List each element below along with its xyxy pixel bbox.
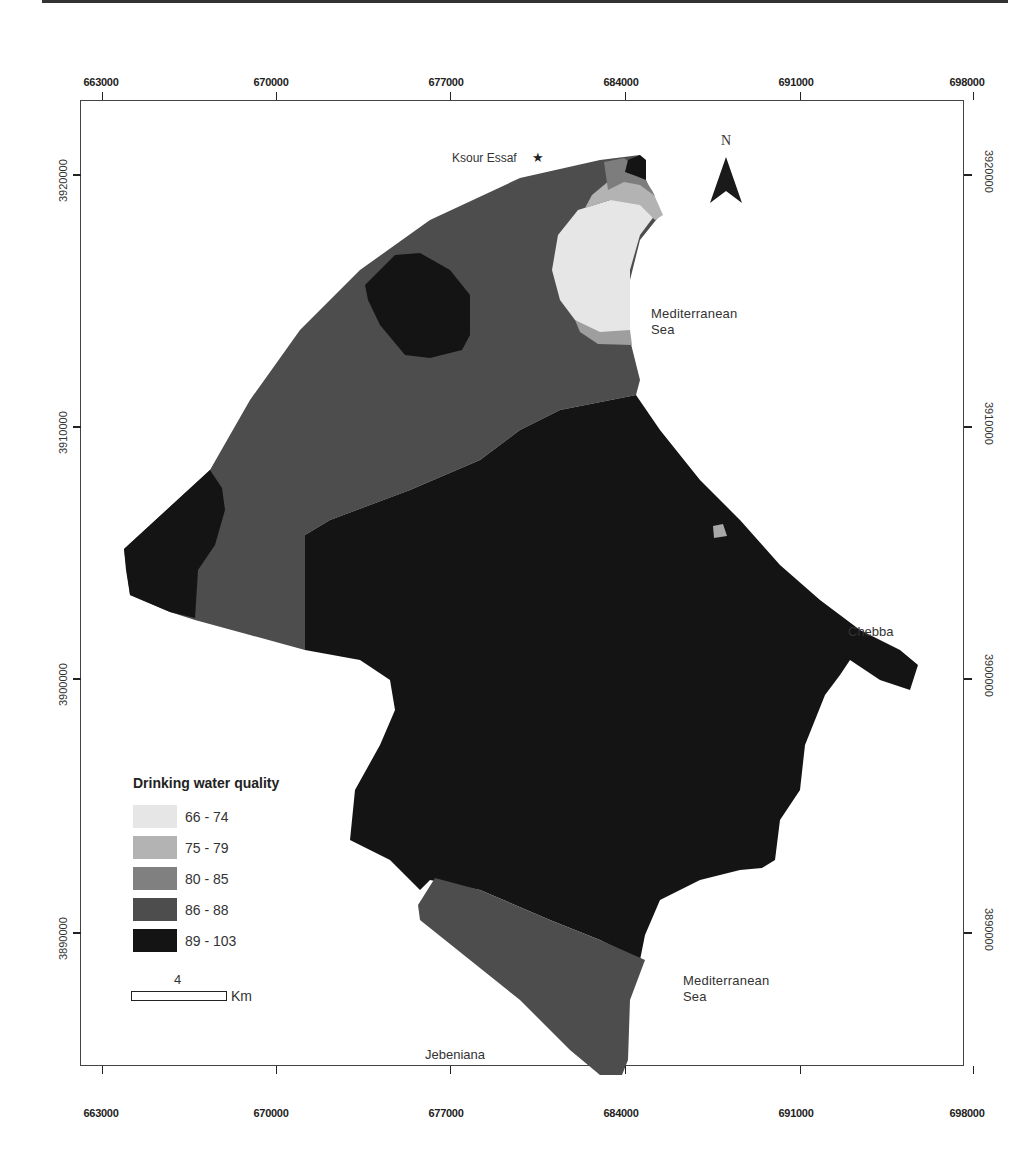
x-tick (800, 92, 801, 100)
legend-item: 89 - 103 (133, 925, 279, 956)
legend-item: 86 - 88 (133, 894, 279, 925)
legend-item: 80 - 85 (133, 863, 279, 894)
y-tick-label: 3900000 (57, 663, 69, 706)
y-tick-label: 3920000 (983, 150, 995, 193)
x-tick (800, 1066, 801, 1074)
y-tick (73, 426, 81, 428)
legend-label: 80 - 85 (185, 871, 229, 887)
north-label: N (706, 133, 746, 149)
scale-bar-graphic (131, 991, 227, 1001)
place-ksour-essaf: Ksour Essaf ★ (452, 150, 544, 166)
sea-label-line: Mediterranean (683, 973, 769, 989)
x-tick-label: 691000 (779, 1107, 814, 1119)
y-tick (73, 932, 81, 934)
legend-label: 86 - 88 (185, 902, 229, 918)
legend-label: 75 - 79 (185, 840, 229, 856)
legend-swatch (133, 805, 177, 828)
y-tick (964, 932, 972, 934)
place-label: Ksour Essaf (452, 151, 517, 165)
sea-label-north: Mediterranean Sea (651, 306, 737, 338)
x-tick-label: 677000 (429, 1107, 464, 1119)
y-tick-label: 3890000 (57, 917, 69, 960)
y-tick-label: 3920000 (57, 159, 69, 202)
sea-label-line: Sea (683, 989, 769, 1005)
x-tick-label: 684000 (604, 76, 639, 88)
x-tick (625, 92, 626, 100)
x-tick-label: 670000 (254, 76, 289, 88)
legend-title: Drinking water quality (133, 775, 279, 791)
x-tick-label: 684000 (604, 1107, 639, 1119)
y-tick (73, 174, 81, 176)
x-tick-label: 663000 (84, 76, 119, 88)
town-star-icon: ★ (532, 150, 544, 165)
y-tick (964, 174, 972, 176)
x-tick (102, 1066, 103, 1074)
x-tick (102, 92, 103, 100)
sea-label-line: Mediterranean (651, 306, 737, 322)
x-tick (450, 92, 451, 100)
x-tick-label: 670000 (254, 1107, 289, 1119)
place-chebba: Chebba (848, 624, 894, 639)
scale-unit: Km (231, 988, 252, 1004)
x-tick (973, 92, 974, 100)
y-tick (73, 678, 81, 680)
legend-label: 89 - 103 (185, 933, 236, 949)
y-tick (964, 678, 972, 680)
x-tick-label: 691000 (779, 76, 814, 88)
north-arrow-icon (706, 149, 746, 209)
legend-swatch (133, 836, 177, 859)
legend-item: 66 - 74 (133, 801, 279, 832)
x-tick (276, 1066, 277, 1074)
y-tick-label: 3910000 (57, 411, 69, 454)
sea-label-south: Mediterranean Sea (683, 973, 769, 1005)
y-tick-label: 3910000 (983, 402, 995, 445)
y-tick-label: 3890000 (983, 908, 995, 951)
scale-value: 4 (174, 972, 181, 987)
x-tick (276, 92, 277, 100)
x-tick-label: 677000 (429, 76, 464, 88)
x-tick (450, 1066, 451, 1074)
x-tick (625, 1066, 626, 1074)
sea-label-line: Sea (651, 322, 737, 338)
legend-item: 75 - 79 (133, 832, 279, 863)
y-tick (964, 426, 972, 428)
y-tick-label: 3900000 (983, 654, 995, 697)
place-jebeniana: Jebeniana (425, 1047, 485, 1062)
x-tick (973, 1066, 974, 1074)
legend-label: 66 - 74 (185, 809, 229, 825)
north-arrow: N (706, 133, 746, 213)
x-tick-label: 698000 (950, 76, 985, 88)
legend-swatch (133, 929, 177, 952)
x-tick-label: 698000 (950, 1107, 985, 1119)
legend-swatch (133, 867, 177, 890)
legend: Drinking water quality 66 - 74 75 - 79 8… (133, 775, 279, 956)
legend-swatch (133, 898, 177, 921)
x-tick-label: 663000 (84, 1107, 119, 1119)
